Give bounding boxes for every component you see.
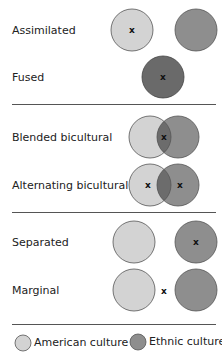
position-marker: x — [145, 180, 151, 190]
blended-diagram: x — [129, 116, 199, 158]
american-culture-circle — [113, 221, 155, 263]
ethnic-culture-circle — [175, 269, 217, 311]
position-marker: x — [161, 286, 167, 296]
position-marker: x — [177, 180, 183, 190]
marginal-diagram: x — [113, 269, 217, 311]
acculturation-diagram: x x x x x x — [0, 0, 222, 358]
alternating-diagram: x x — [129, 164, 199, 206]
position-marker: x — [129, 25, 135, 35]
legend-ethnic-swatch — [130, 334, 146, 350]
position-marker: x — [193, 237, 199, 247]
assimilated-diagram: x — [111, 9, 217, 51]
legend-american-label: American culture — [34, 336, 128, 349]
position-marker: x — [160, 72, 166, 82]
position-marker: x — [161, 132, 167, 142]
legend-american-swatch — [15, 335, 31, 351]
legend-ethnic-label: Ethnic culture — [149, 335, 222, 348]
ethnic-culture-circle — [175, 9, 217, 51]
american-culture-circle — [113, 269, 155, 311]
fused-diagram: x — [142, 56, 184, 98]
separated-diagram: x — [113, 221, 217, 263]
